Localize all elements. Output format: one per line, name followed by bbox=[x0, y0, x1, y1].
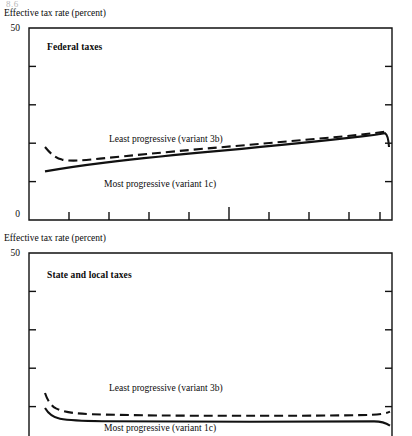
plot-svg-federal bbox=[0, 21, 412, 226]
x-axis-ticks-federal bbox=[69, 207, 380, 220]
series-line-most-progressive-federal bbox=[45, 133, 389, 171]
y-axis-title-state-local: Effective tax rate (percent) bbox=[4, 233, 106, 244]
chart-panel-state-and-local-taxes: Effective tax rate (percent) 50 State an… bbox=[0, 233, 412, 436]
axis-frame-federal bbox=[29, 28, 392, 220]
y-axis-ticks-right-federal bbox=[385, 66, 392, 181]
running-head: 8.6 bbox=[6, 0, 19, 7]
axis-frame-state-local bbox=[29, 253, 392, 436]
y-axis-title-federal: Effective tax rate (percent) bbox=[4, 8, 106, 19]
series-line-most-progressive-state-local bbox=[45, 408, 390, 426]
y-axis-ticks-right-state-local bbox=[385, 291, 392, 406]
chart-panel-federal-taxes: Effective tax rate (percent) 50 0 Federa… bbox=[0, 8, 412, 226]
series-line-least-progressive-federal bbox=[45, 132, 386, 161]
plot-svg-state-local bbox=[0, 246, 412, 436]
series-line-least-progressive-state-local bbox=[45, 393, 390, 416]
plot-area-state-local bbox=[0, 246, 412, 436]
y-axis-ticks-state-local bbox=[29, 291, 36, 406]
y-axis-ticks-federal bbox=[29, 66, 36, 181]
plot-area-federal bbox=[0, 21, 412, 226]
